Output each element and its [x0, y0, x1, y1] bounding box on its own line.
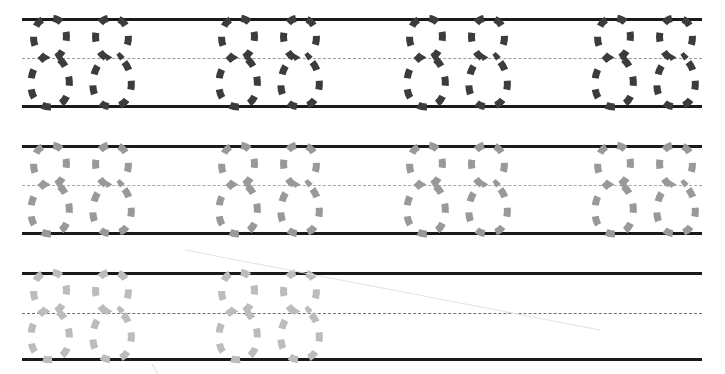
trace-glyph-digit-eight	[17, 265, 83, 365]
trace-glyph-digit-eight	[79, 265, 145, 365]
trace-glyph-digit-eight	[267, 265, 333, 365]
tracing-worksheet	[0, 0, 725, 374]
trace-glyph-digit-eight	[205, 265, 271, 365]
practice-row-3	[0, 0, 725, 374]
